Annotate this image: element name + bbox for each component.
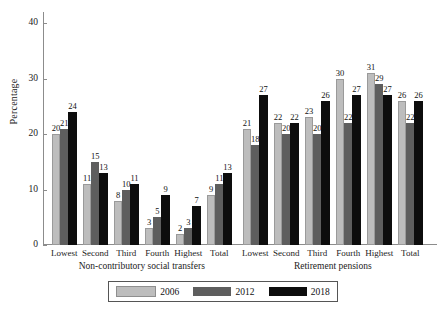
bar-value-label: 26 [409, 91, 429, 100]
y-axis-title: Percentage [8, 42, 19, 162]
legend-entry-2006[interactable]: 2006 [116, 286, 179, 297]
bar-2006-lowest [243, 129, 251, 246]
bar-2018-second [99, 173, 107, 245]
bar-2012-lowest [251, 145, 259, 245]
bar-2012-total [406, 123, 414, 245]
legend-entry-2018[interactable]: 2018 [269, 287, 330, 297]
bar-2012-third [122, 190, 130, 245]
bar-2012-highest [375, 84, 383, 245]
bar-value-label: 11 [125, 174, 145, 183]
bar-2006-fourth [145, 228, 153, 245]
bar-2018-total [223, 173, 231, 245]
bar-2006-second [274, 123, 282, 245]
bar-2018-fourth [352, 95, 360, 245]
bar-2018-third [130, 184, 138, 245]
bar-2018-fourth [161, 195, 169, 245]
bar-value-label: 24 [63, 102, 83, 111]
bar-value-label: 13 [94, 163, 114, 172]
bar-value-label: 21 [237, 119, 257, 128]
bar-value-label: 9 [156, 185, 176, 194]
bar-2006-third [114, 201, 122, 245]
bar-2006-highest [176, 234, 184, 245]
bar-value-label: 30 [330, 69, 350, 78]
bar-value-label: 27 [254, 85, 274, 94]
y-axis-tick-label: 20 [0, 129, 38, 139]
bar-2012-fourth [344, 123, 352, 245]
legend-entry-2012[interactable]: 2012 [193, 287, 254, 297]
bar-2018-lowest [68, 112, 76, 245]
bar-value-label: 26 [316, 91, 336, 100]
legend-label-2018: 2018 [311, 287, 330, 297]
y-axis-tick-label: 0 [0, 240, 38, 250]
legend-swatch-2006 [116, 286, 156, 297]
legend-label-2006: 2006 [160, 287, 179, 297]
bar-2018-total [414, 101, 422, 245]
figure-container: Percentage 010203040 2021241115138101135… [0, 0, 444, 319]
y-axis-tick-label: 40 [0, 18, 38, 28]
bar-2006-third [305, 117, 313, 245]
legend-swatch-2018 [269, 287, 307, 296]
bar-2006-fourth [336, 79, 344, 245]
bar-value-label: 23 [299, 107, 319, 116]
bar-2006-total [398, 101, 406, 245]
legend-swatch-2012 [193, 287, 231, 296]
bar-2018-highest [192, 206, 200, 245]
bar-2018-second [290, 123, 298, 245]
panel-title-1: Non-contributory social transfers [42, 261, 242, 272]
x-axis-category-total: Total [387, 248, 433, 258]
bar-2018-third [321, 101, 329, 245]
bar-2006-lowest [52, 134, 60, 245]
bar-value-label: 15 [85, 152, 105, 161]
bar-2012-fourth [153, 217, 161, 245]
bar-2012-second [282, 134, 290, 245]
panel-title-2: Retirement pensions [233, 261, 433, 272]
y-axis-tick-label: 10 [0, 185, 38, 195]
bar-2012-total [215, 184, 223, 245]
bar-2018-highest [383, 95, 391, 245]
legend-label-2012: 2012 [235, 287, 254, 297]
bar-value-label: 31 [361, 63, 381, 72]
bar-2012-lowest [60, 129, 68, 246]
bar-2006-highest [367, 73, 375, 245]
chart-legend: 200620122018 [108, 281, 338, 302]
bar-value-label: 29 [369, 74, 389, 83]
plot-area: 2021241115138101135923791113211827222022… [43, 12, 435, 245]
bar-2006-second [83, 184, 91, 245]
y-axis-tick-mark [43, 245, 47, 246]
bar-value-label: 27 [347, 85, 367, 94]
bar-value-label: 7 [187, 196, 207, 205]
bar-2012-third [313, 134, 321, 245]
y-axis-tick-label: 30 [0, 74, 38, 84]
bar-value-label: 13 [218, 163, 238, 172]
bar-2012-highest [184, 228, 192, 245]
bar-2006-total [207, 195, 215, 245]
bar-2018-lowest [259, 95, 267, 245]
bar-2012-second [91, 162, 99, 245]
